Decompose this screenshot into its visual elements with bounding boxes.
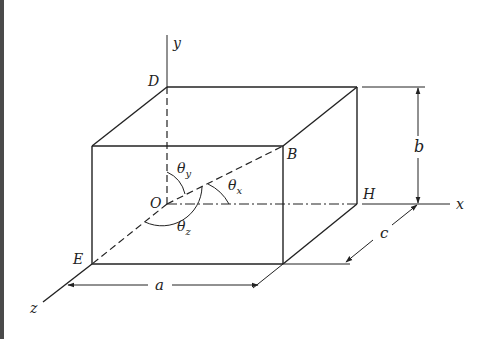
point-E-label: E	[72, 251, 83, 267]
y-axis-label: y	[172, 35, 182, 51]
theta-x-arc	[208, 184, 229, 204]
dimension-a	[68, 264, 283, 288]
theta-z-label: θz	[177, 218, 191, 237]
dimension-c-label: c	[380, 224, 389, 242]
dimension-b-label: b	[414, 137, 424, 156]
point-D-label: D	[147, 73, 159, 89]
box-diagram: y x z D B O H E a b c θy θx θz	[0, 0, 480, 339]
point-B-label: B	[286, 146, 297, 162]
x-axis-label: x	[456, 196, 464, 212]
dimension-c	[283, 205, 417, 264]
theta-x-label: θx	[228, 177, 242, 196]
point-O-label: O	[150, 195, 162, 211]
box-edges	[92, 87, 357, 264]
theta-y-label: θy	[177, 160, 191, 179]
z-axis	[43, 204, 167, 302]
dimension-a-label: a	[155, 276, 164, 294]
z-axis-label: z	[29, 300, 38, 316]
point-H-label: H	[362, 186, 376, 202]
